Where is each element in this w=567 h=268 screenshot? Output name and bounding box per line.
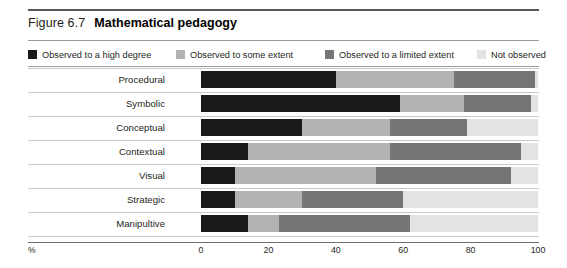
legend-label: Observed to some extent <box>190 50 293 60</box>
x-tick-label: 80 <box>466 245 476 255</box>
row-divider <box>28 236 539 237</box>
bar-segment <box>279 215 410 232</box>
bar-segment <box>454 71 535 88</box>
bar-segment <box>400 95 464 112</box>
legend-label: Observed to a high degree <box>42 50 151 60</box>
bar-row: Manipultive <box>28 212 539 236</box>
bar-row: Visual <box>28 164 539 188</box>
stacked-bar <box>201 167 538 184</box>
bar-segment <box>302 191 403 208</box>
legend-label: Not observed <box>491 50 546 60</box>
bar-segment <box>248 215 278 232</box>
bar-row: Symbolic <box>28 92 539 116</box>
legend-item-3[interactable]: Observed to a limited extent <box>325 50 454 60</box>
bar-segment <box>511 167 538 184</box>
bar-row: Contextual <box>28 140 539 164</box>
bar-segment <box>201 143 248 160</box>
legend-swatch-icon <box>176 50 185 59</box>
legend-item-2[interactable]: Observed to some extent <box>176 50 293 60</box>
x-axis-line <box>28 242 539 243</box>
legend-swatch-icon <box>325 50 334 59</box>
top-divider <box>28 9 539 11</box>
bar-segment <box>410 215 538 232</box>
bar-segment <box>235 167 377 184</box>
bar-segment <box>248 143 390 160</box>
bar-segment <box>201 191 235 208</box>
bar-segment <box>390 119 468 136</box>
row-divider <box>28 212 539 213</box>
row-label: Symbolic <box>28 98 165 109</box>
chart-legend: Observed to a high degreeObserved to som… <box>28 47 539 62</box>
row-label: Conceptual <box>28 122 165 133</box>
x-tick-label: 60 <box>398 245 408 255</box>
row-label: Procedural <box>28 74 165 85</box>
row-divider <box>28 140 539 141</box>
bar-segment <box>403 191 538 208</box>
bar-segment <box>201 71 336 88</box>
row-divider <box>28 68 539 69</box>
bar-segment <box>535 71 538 88</box>
legend-label: Observed to a limited extent <box>339 50 454 60</box>
bar-segment <box>201 95 400 112</box>
legend-swatch-icon <box>28 50 37 59</box>
plot-area: ProceduralSymbolicConceptualContextualVi… <box>0 68 567 268</box>
legend-item-4[interactable]: Not observed <box>477 50 546 60</box>
x-tick-label: 20 <box>263 245 273 255</box>
stacked-bar <box>201 71 538 88</box>
row-label: Visual <box>28 170 165 181</box>
figure-number: Figure 6.7 <box>28 16 85 30</box>
stacked-bar <box>201 95 538 112</box>
stacked-bar <box>201 143 538 160</box>
bar-segment <box>201 215 248 232</box>
bar-segment <box>464 95 531 112</box>
figure-container: Figure 6.7 Mathematical pedagogy Observe… <box>0 0 567 268</box>
legend-divider <box>28 66 539 67</box>
row-label: Contextual <box>28 146 165 157</box>
figure-title: Mathematical pedagogy <box>94 16 237 30</box>
bar-segment <box>201 119 302 136</box>
bar-segment <box>531 95 538 112</box>
bar-segment <box>376 167 511 184</box>
x-tick-label: 40 <box>331 245 341 255</box>
stacked-bar <box>201 119 538 136</box>
bar-segment <box>521 143 538 160</box>
bar-segment <box>467 119 538 136</box>
axis-unit-label: % <box>28 245 36 255</box>
bar-rows-bottom-divider <box>28 236 539 237</box>
x-tick-label: 100 <box>531 245 546 255</box>
bar-segment <box>336 71 454 88</box>
stacked-bar <box>201 215 538 232</box>
bar-row: Conceptual <box>28 116 539 140</box>
row-label: Manipultive <box>28 218 165 229</box>
row-divider <box>28 116 539 117</box>
bar-segment <box>235 191 302 208</box>
legend-swatch-icon <box>477 50 486 59</box>
row-divider <box>28 188 539 189</box>
figure-heading: Figure 6.7 Mathematical pedagogy <box>28 16 237 36</box>
bar-segment <box>302 119 390 136</box>
bar-segment <box>390 143 521 160</box>
row-label: Strategic <box>28 194 165 205</box>
title-divider <box>28 40 539 41</box>
stacked-bar <box>201 191 538 208</box>
bar-row: Procedural <box>28 68 539 92</box>
x-tick-label: 0 <box>199 245 204 255</box>
bar-segment <box>201 167 235 184</box>
bar-row: Strategic <box>28 188 539 212</box>
row-divider <box>28 92 539 93</box>
row-divider <box>28 164 539 165</box>
legend-item-1[interactable]: Observed to a high degree <box>28 50 151 60</box>
